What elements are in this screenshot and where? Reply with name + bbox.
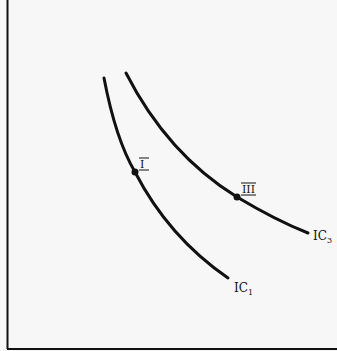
curve-ic3-label: IC3 xyxy=(313,229,332,245)
curve-ic3 xyxy=(126,73,308,233)
point-i-marker xyxy=(132,169,139,176)
point-iii-label: III xyxy=(241,183,256,196)
point-i-label: I xyxy=(139,158,149,171)
point-iii-marker xyxy=(234,194,241,201)
svg-text:I: I xyxy=(140,158,144,171)
curve-ic1-label: IC1 xyxy=(234,281,253,297)
svg-text:III: III xyxy=(242,183,255,196)
indifference-curve-diagram: I III IC1 IC3 xyxy=(0,0,337,351)
